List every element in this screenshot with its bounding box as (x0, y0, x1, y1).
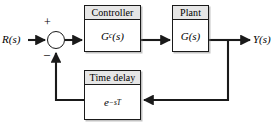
wire-delay-to-sum (56, 53, 84, 100)
time-delay-tf-exponent: −sT (109, 98, 121, 107)
input-signal-label: R(s) (2, 33, 20, 45)
block-diagram-canvas: + – R(s) Y(s) Controller Gc(s) Plant G(s… (0, 0, 276, 128)
plant-transfer-function: G(s) (173, 20, 208, 51)
plus-sign-label: + (44, 16, 51, 28)
plant-tf-suffix: (s) (189, 30, 201, 42)
time-delay-block-header: Time delay (85, 71, 140, 85)
output-signal-label: Y(s) (253, 33, 271, 45)
controller-tf-base: G (101, 30, 109, 42)
plant-tf-base: G (181, 30, 189, 42)
controller-transfer-function: Gc(s) (85, 20, 140, 51)
time-delay-block[interactable]: Time delay e−sT (84, 70, 141, 120)
controller-block-header: Controller (85, 6, 140, 20)
controller-block[interactable]: Controller Gc(s) (84, 5, 141, 52)
minus-sign-label: – (44, 48, 50, 60)
plant-block-header: Plant (173, 6, 208, 20)
plant-block[interactable]: Plant G(s) (172, 5, 209, 52)
controller-tf-suffix: (s) (112, 30, 124, 42)
time-delay-transfer-function: e−sT (85, 85, 140, 119)
